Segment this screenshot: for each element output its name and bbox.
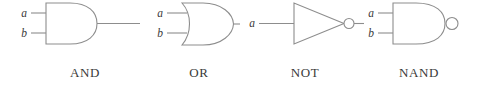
gate-or-caption: OR (189, 65, 208, 80)
gate-not-caption: NOT (291, 65, 320, 80)
gate-nand-inversion-bubble-icon (446, 18, 458, 30)
gate-or: a b OR (157, 3, 240, 80)
logic-gates-canvas: a b AND a b OR a NOT (0, 0, 481, 89)
gate-or-input-b-label: b (157, 27, 163, 39)
gate-or-body (182, 3, 234, 45)
gate-and-caption: AND (70, 65, 100, 80)
logic-gates-figure: a b AND a b OR a NOT (0, 0, 481, 89)
gate-not: a NOT (249, 3, 364, 80)
gate-not-input-a-label: a (249, 17, 255, 29)
gate-and: a b AND (21, 3, 140, 80)
gate-and-body (46, 3, 97, 44)
gate-nand-body (393, 3, 445, 44)
gate-and-input-a-label: a (21, 7, 27, 19)
gate-nand-caption: NAND (399, 65, 439, 80)
gate-not-inversion-bubble-icon (344, 19, 354, 29)
gate-or-input-a-label: a (157, 7, 163, 19)
gate-and-input-b-label: b (21, 27, 27, 39)
gate-nand: a b NAND (368, 3, 458, 80)
gate-nand-input-a-label: a (368, 7, 374, 19)
gate-nand-input-b-label: b (368, 27, 374, 39)
gate-not-body (294, 3, 344, 44)
